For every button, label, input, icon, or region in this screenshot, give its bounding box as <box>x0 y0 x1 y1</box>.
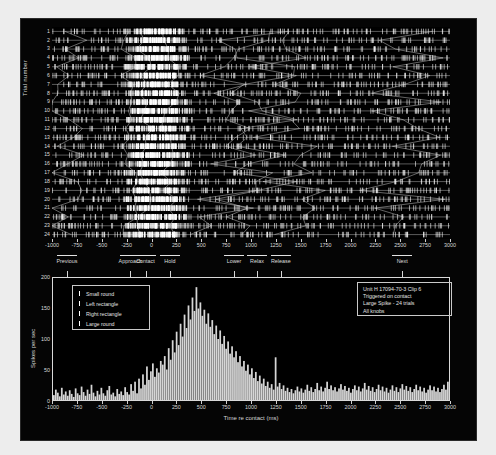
event-marker-bar <box>160 255 180 256</box>
histogram-x-tick-label: 2750 <box>419 404 431 410</box>
raster-x-tick-label: 1250 <box>270 242 282 248</box>
raster-trial-label: 19 <box>44 188 50 193</box>
raster-x-tick-label: 0 <box>150 242 153 248</box>
event-label: Lower <box>227 258 242 264</box>
raster-trial-label: 10 <box>44 108 50 113</box>
raster-trial-label: 6 <box>47 73 50 78</box>
legend-item-label: Large round <box>86 321 115 327</box>
raster-x-tick-label: 500 <box>197 242 206 248</box>
histogram-x-tick-label: -250 <box>121 404 132 410</box>
histogram-x-tick-label: 750 <box>222 404 231 410</box>
histogram-x-tick-label: 250 <box>172 404 181 410</box>
raster-trial-label: 9 <box>47 99 50 104</box>
raster-trial-label: 22 <box>44 214 50 219</box>
histogram-x-tick-label: 2250 <box>369 404 381 410</box>
raster-trial-numbers: 123456789101112131415161718192021222324 <box>36 27 52 239</box>
raster-x-tick-label: 2000 <box>345 242 357 248</box>
histogram-x-tick-label: 0 <box>150 404 153 410</box>
histogram-x-axis: -1000-750-500-25002505007501000125015001… <box>52 401 450 415</box>
raster-trial-label: 7 <box>47 82 50 87</box>
event-label-band: PreviousApproachContactHoldLowerRelaxRel… <box>52 255 450 271</box>
event-marker-bar <box>392 255 412 256</box>
event-label: Previous <box>56 258 77 264</box>
event-marker-bar <box>136 255 156 256</box>
legend-box: Small roundLeft rectangleRight rectangle… <box>72 285 150 330</box>
raster-trial-label: 13 <box>44 135 50 140</box>
raster-x-tick-label: 3000 <box>444 242 456 248</box>
raster-x-tick-label: -1000 <box>45 242 59 248</box>
histogram-y-tick-label: 50 <box>44 367 50 373</box>
raster-trial-label: 3 <box>47 46 50 51</box>
histogram-x-tick-label: -1000 <box>45 404 59 410</box>
legend-tick-icon <box>79 321 80 326</box>
raster-trial-label: 24 <box>44 232 50 237</box>
event-marker-bar <box>224 255 244 256</box>
histogram-x-tick-label: 3000 <box>444 404 456 410</box>
raster-ylabel: Trial number <box>22 60 28 96</box>
raster-x-tick-label: 750 <box>222 242 231 248</box>
raster-x-tick-label: 250 <box>172 242 181 248</box>
histogram-x-tick-label: -750 <box>71 404 82 410</box>
histogram-y-tick-label: 200 <box>41 274 50 280</box>
legend-tick-icon <box>79 301 80 306</box>
info-line: Unit H 17094-70-3 Clip 6 <box>363 286 421 292</box>
legend-tick-icon <box>79 291 80 296</box>
raster-trial-label: 4 <box>47 55 50 60</box>
histogram-x-tick-label: 1500 <box>295 404 307 410</box>
raster-trial-label: 1 <box>47 29 50 34</box>
histogram-y-tick-label: 100 <box>41 336 50 342</box>
histogram-xlabel: Time re contact (ms) <box>224 415 279 421</box>
legend-item-label: Small round <box>86 291 114 297</box>
histogram-x-tick-label: 2000 <box>345 404 357 410</box>
info-line: Large Spike - 24 trials <box>363 300 415 306</box>
raster-x-tick-label: 2250 <box>369 242 381 248</box>
event-marker-bar <box>57 255 77 256</box>
raster-plot <box>52 27 450 239</box>
legend-item-label: Left rectangle <box>86 301 118 307</box>
histogram-x-tick-label: 1750 <box>320 404 332 410</box>
raster-trial-label: 16 <box>44 161 50 166</box>
histogram-x-tick-label: 2500 <box>394 404 406 410</box>
raster-trial-label: 17 <box>44 170 50 175</box>
histogram-y-tick-labels: 050100150200 <box>36 270 50 410</box>
legend-tick-icon <box>79 311 80 316</box>
raster-x-tick-label: 1500 <box>295 242 307 248</box>
raster-trial-label: 21 <box>44 205 50 210</box>
raster-trial-label: 11 <box>45 117 50 122</box>
histogram-x-tick-label: 1250 <box>270 404 282 410</box>
event-label: Release <box>271 258 291 264</box>
raster-trial-label: 12 <box>44 126 50 131</box>
histogram-y-tick-label: 150 <box>41 305 50 311</box>
histogram-x-tick-label: -500 <box>96 404 107 410</box>
raster-x-tick-label: -500 <box>96 242 107 248</box>
histogram-x-tick-label: 1000 <box>245 404 257 410</box>
figure-root: Trial number 123456789101112131415161718… <box>0 0 496 455</box>
event-marker-bar <box>247 255 267 256</box>
raster-trial-label: 5 <box>47 64 50 69</box>
raster-x-tick-label: 2500 <box>394 242 406 248</box>
raster-trial-label: 20 <box>44 197 50 202</box>
histogram-x-tick-label: 500 <box>197 404 206 410</box>
event-label: Relax <box>250 258 264 264</box>
event-label: Hold <box>164 258 175 264</box>
raster-x-tick-label: 1000 <box>245 242 257 248</box>
event-label: Contact <box>136 258 155 264</box>
info-line: All knobs <box>363 308 385 314</box>
raster-x-tick-label: -750 <box>71 242 82 248</box>
event-marker-bar <box>271 255 291 256</box>
raster-trial-label: 2 <box>47 38 50 43</box>
raster-trial-label: 23 <box>44 223 50 228</box>
legend-item-label: Right rectangle <box>86 311 122 317</box>
raster-trial-label: 15 <box>44 152 50 157</box>
raster-trial-label: 8 <box>47 91 50 96</box>
raster-x-axis: -1000-750-500-25002505007501000125015001… <box>52 239 450 249</box>
raster-trial-label: 14 <box>44 144 50 149</box>
event-label: Next <box>397 258 408 264</box>
raster-trial-label: 18 <box>44 179 50 184</box>
raster-panel <box>52 27 450 239</box>
raster-x-tick-label: 2750 <box>419 242 431 248</box>
raster-x-tick-label: 1750 <box>320 242 332 248</box>
info-annotation-box: Unit H 17094-70-3 Clip 6Triggered on con… <box>357 282 452 316</box>
raster-x-tick-label: -250 <box>121 242 132 248</box>
info-line: Triggered on contact <box>363 293 411 299</box>
